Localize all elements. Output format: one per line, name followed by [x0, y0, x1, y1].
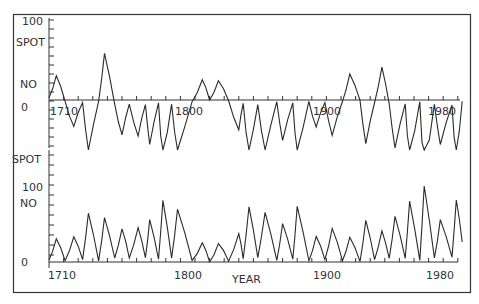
bottom-x-label-1800: 1800 [174, 269, 202, 282]
top-y-label-100: 100 [22, 15, 43, 28]
top-x-label-1900: 1900 [313, 105, 341, 118]
top-y-label-no: NO [20, 78, 37, 91]
bottom-x-label-1710: 1710 [48, 269, 76, 282]
bottom-y-label-spot: SPOT [12, 153, 41, 166]
x-axis-title-year: YEAR [231, 273, 261, 286]
top-y-label-spot: SPOT [16, 36, 45, 49]
bottom-y-label-no: NO [20, 197, 37, 210]
bottom-x-label-1900: 1900 [313, 269, 341, 282]
top-series-line [49, 53, 462, 150]
bottom-y-label-100: 100 [22, 181, 43, 194]
bottom-x-label-1980: 1980 [426, 269, 454, 282]
top-panel: 100 SPOT NO 0 1710 1800 1900 1980 [16, 15, 462, 150]
bottom-y-label-zero: 0 [21, 256, 28, 269]
sunspot-figure: 100 SPOT NO 0 1710 1800 1900 1980 SPOT 1… [0, 0, 479, 304]
top-x-label-1980: 1980 [428, 105, 456, 118]
top-y-ticks [49, 20, 54, 146]
top-y-label-zero: 0 [21, 101, 28, 114]
bottom-y-ticks [49, 155, 54, 255]
top-x-label-1800: 1800 [175, 105, 203, 118]
bottom-series-line [49, 186, 462, 262]
bottom-panel: SPOT 100 NO 0 1710 1800 1900 1980 YEAR [12, 150, 462, 286]
top-x-label-1710: 1710 [50, 105, 78, 118]
